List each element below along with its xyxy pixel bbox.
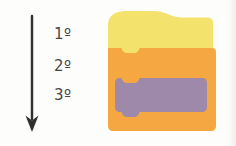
- block-order-diagram: 1º 2º 3º: [0, 0, 236, 146]
- stack-block: [115, 78, 207, 117]
- down-arrow-icon: [26, 16, 39, 132]
- hat-block: [108, 11, 213, 53]
- diagram-canvas: [0, 0, 236, 146]
